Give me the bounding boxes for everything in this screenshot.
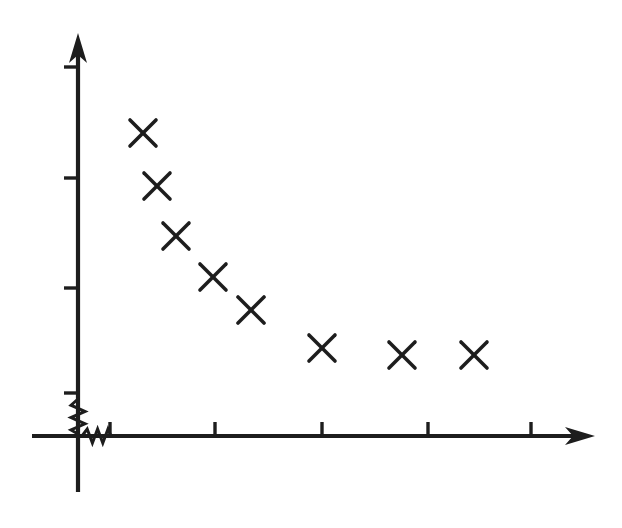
data-point-marker	[200, 264, 226, 290]
plot-canvas	[0, 0, 622, 528]
data-markers-group	[130, 120, 487, 368]
data-point-marker	[144, 173, 170, 199]
data-point-marker	[461, 342, 487, 368]
data-point-marker	[238, 297, 264, 323]
data-point-marker	[389, 342, 415, 368]
data-point-marker	[309, 335, 335, 361]
data-point-marker	[130, 120, 156, 146]
scatter-plot-figure	[0, 0, 622, 528]
axes-group	[32, 33, 595, 492]
data-point-marker	[163, 223, 189, 249]
